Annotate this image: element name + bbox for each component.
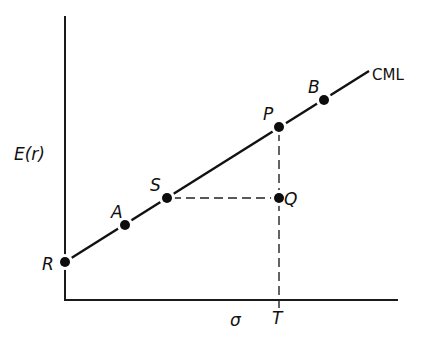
point-s	[162, 193, 172, 203]
cml-label: CML	[372, 66, 404, 84]
point-label-a: A	[110, 202, 123, 222]
point-label-s: S	[150, 175, 161, 195]
point-b	[319, 95, 329, 105]
point-p	[274, 122, 284, 132]
points-group: RASPBQ	[42, 77, 332, 274]
y-axis-label: E(r)	[14, 144, 45, 164]
point-label-p: P	[263, 104, 274, 124]
point-q	[274, 193, 284, 203]
point-label-q: Q	[284, 189, 297, 209]
point-label-r: R	[42, 254, 54, 274]
t-label: T	[272, 308, 284, 328]
x-axis-label: σ	[230, 310, 242, 330]
point-r	[60, 257, 70, 267]
cml-diagram: RASPBQ E(r) σ T CML	[0, 0, 430, 339]
point-label-b: B	[308, 77, 320, 97]
